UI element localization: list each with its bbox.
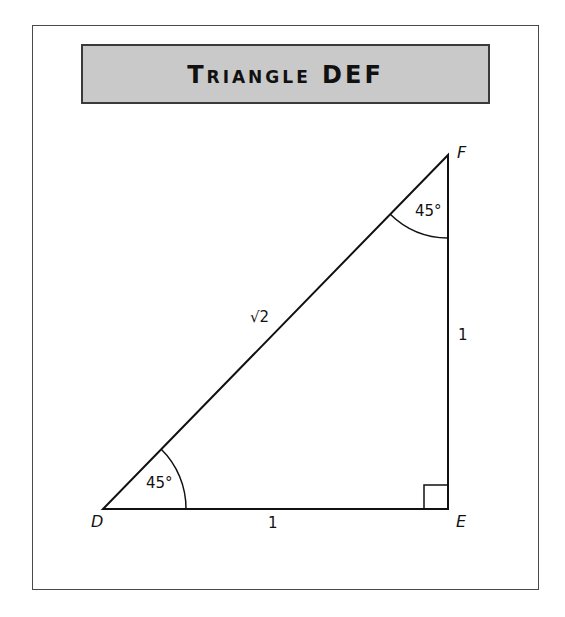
right-angle-marker-e: [424, 485, 448, 509]
angle-label-f: 45°: [415, 202, 442, 220]
side-label-ef: 1: [458, 326, 468, 344]
vertex-label-d: D: [91, 512, 103, 531]
triangle-diagram: D E F 45° 45° √2 1 1: [0, 0, 565, 617]
triangle-def: [103, 155, 448, 509]
vertex-label-e: E: [456, 512, 467, 531]
vertex-label-f: F: [457, 143, 467, 162]
side-label-de: 1: [268, 514, 278, 532]
side-label-df: √2: [250, 308, 269, 326]
angle-label-d: 45°: [146, 474, 173, 492]
